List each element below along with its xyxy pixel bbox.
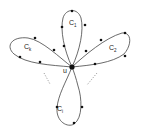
loop-c2	[72, 33, 130, 67]
loop-ci	[57, 67, 81, 125]
node	[39, 61, 42, 64]
node	[73, 122, 76, 125]
loop-label-ci: Ci	[57, 105, 63, 114]
graph-diagram: u C1 C2 Ck Ci	[0, 0, 143, 133]
loop-label-c1: C1	[69, 19, 77, 28]
center-label: u	[63, 67, 67, 74]
flower-graph: u C1 C2 Ck Ci	[0, 0, 143, 133]
node	[84, 24, 87, 27]
node	[81, 106, 84, 109]
node	[34, 37, 37, 40]
node	[124, 32, 127, 35]
node	[124, 55, 127, 58]
ellipsis-right-icon	[87, 73, 97, 85]
node	[63, 45, 66, 48]
loop-label-c2: C2	[109, 44, 117, 53]
node	[94, 63, 97, 66]
node	[61, 26, 64, 29]
loop-label-ck: Ck	[24, 43, 32, 52]
center-node-u	[69, 64, 74, 69]
node	[100, 39, 103, 42]
node	[19, 56, 22, 59]
node	[85, 50, 88, 53]
ellipsis-left-icon	[44, 73, 50, 84]
node	[71, 10, 74, 13]
node	[53, 49, 56, 52]
